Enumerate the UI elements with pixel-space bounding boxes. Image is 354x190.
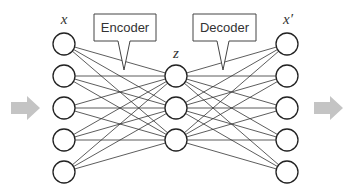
connection-line: [64, 76, 176, 172]
latent-node: [165, 129, 187, 151]
input-layer-label: x: [60, 11, 68, 27]
output-node: [276, 65, 298, 87]
input-node: [53, 129, 75, 151]
output-node: [276, 129, 298, 151]
input-node: [53, 97, 75, 119]
connection-line: [176, 140, 287, 172]
encoder-label: Encoder: [101, 20, 150, 35]
connection-line: [176, 44, 287, 140]
decoder-callout: Decoder: [193, 14, 256, 70]
autoencoder-diagram: Encoder Decoder x z x′: [0, 0, 354, 190]
input-arrow-icon: [11, 96, 40, 120]
latent-node: [165, 65, 187, 87]
output-arrow-icon: [314, 96, 343, 120]
connection-line: [176, 44, 287, 76]
output-node: [276, 33, 298, 55]
output-node: [276, 161, 298, 183]
latent-layer-label: z: [172, 45, 179, 61]
input-node: [53, 33, 75, 55]
input-node: [53, 65, 75, 87]
output-node: [276, 97, 298, 119]
latent-node: [165, 97, 187, 119]
output-layer-label: x′: [282, 11, 294, 27]
connection-line: [64, 140, 176, 172]
encoder-callout: Encoder: [94, 14, 156, 70]
decoder-label: Decoder: [200, 20, 250, 35]
input-node: [53, 161, 75, 183]
